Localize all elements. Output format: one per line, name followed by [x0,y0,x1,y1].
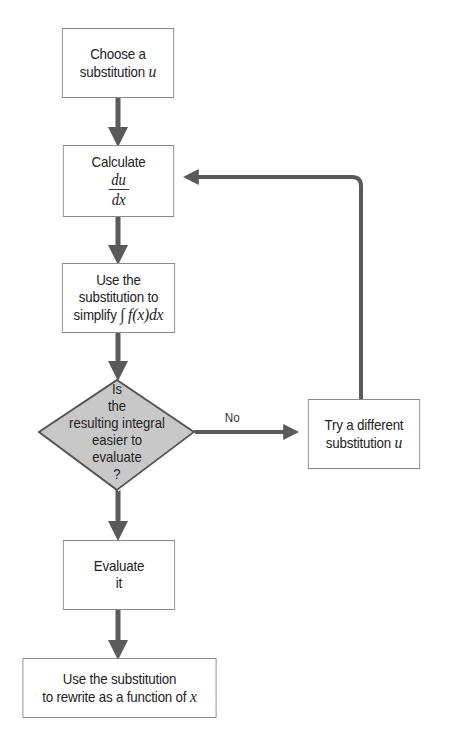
evaluate-box: Evaluate it [63,540,175,610]
du-dx-fraction: du dx [108,171,128,208]
rewrite-box: Use the substitution to rewrite as a fun… [22,658,216,718]
decision-text: Is the resulting integral easier to eval… [47,381,187,483]
rewrite-line2: to rewrite as a function of x [42,688,196,706]
retry-line2: substitution u [326,434,402,452]
choose-line2: substitution u [80,63,156,81]
decision-line5: evaluate [47,449,187,466]
decision-line3: resulting integral [47,415,187,432]
choose-line2-text: substitution [80,64,145,80]
evaluate-line2: it [116,575,122,592]
calculate-line1: Calculate [92,154,146,171]
retry-var: u [395,433,403,452]
connector-layer [0,0,455,736]
choose-var: u [149,62,157,81]
integral-expression: ∫ f(x)dx [120,305,163,324]
fraction-denominator: dx [112,191,126,208]
decision-line1: Is [47,381,187,398]
decision-line2: the [47,398,187,415]
rewrite-line1: Use the substitution [63,671,176,688]
no-edge-label: No [225,410,240,425]
simplify-line1: Use the [96,272,141,289]
simplify-box: Use the substitution to simplify ∫ f(x)d… [62,263,175,333]
rewrite-var: x [190,687,197,706]
calculate-box: Calculate du dx [63,145,174,217]
choose-line1: Choose a [90,46,146,63]
decision-line6: ? [47,466,187,483]
simplify-line2: substitution to [79,289,159,306]
fraction-bar [108,189,128,190]
decision-line4: easier to [47,432,187,449]
fraction-numerator: du [111,171,125,188]
rewrite-line2-text: to rewrite as a function of [42,689,186,705]
retry-line1: Try a different [325,417,404,434]
retry-line2-text: substitution [326,435,391,451]
arrow-retry-to-calculate [190,177,361,400]
evaluate-line1: Evaluate [94,558,144,575]
choose-substitution-box: Choose a substitution u [62,28,174,98]
simplify-line3-text: simplify [74,307,117,323]
try-different-box: Try a different substitution u [308,399,420,469]
simplify-line3: simplify ∫ f(x)dx [74,306,164,324]
